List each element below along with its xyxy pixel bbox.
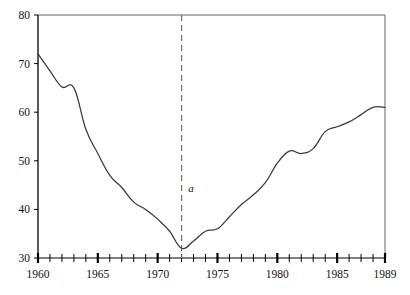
- x-tick-label-1980: 1980: [266, 268, 289, 280]
- series-line: [38, 54, 385, 249]
- y-tick-label-80: 80: [19, 9, 31, 21]
- x-tick-label-1975: 1975: [206, 268, 229, 280]
- x-tick-label-1965: 1965: [86, 268, 109, 280]
- plot-frame: [38, 15, 385, 258]
- plot-border: [38, 15, 385, 258]
- y-axis-tick-labels: 304050607080: [19, 9, 31, 264]
- y-axis-ticks: [34, 15, 38, 258]
- y-tick-label-40: 40: [19, 203, 31, 215]
- y-tick-label-70: 70: [19, 58, 31, 70]
- chart-annotations: a: [182, 15, 195, 258]
- y-tick-label-50: 50: [19, 155, 31, 167]
- chart-canvas: 304050607080 196019651970197519801985198…: [0, 0, 410, 295]
- y-tick-label-60: 60: [19, 106, 31, 118]
- annotation-label-a: a: [188, 182, 194, 194]
- line-chart: 304050607080 196019651970197519801985198…: [0, 0, 410, 295]
- x-tick-label-1960: 1960: [27, 268, 50, 280]
- x-tick-label-1985: 1985: [326, 268, 349, 280]
- x-tick-label-1970: 1970: [146, 268, 169, 280]
- data-series: [38, 54, 385, 249]
- y-tick-label-30: 30: [19, 252, 31, 264]
- x-axis-tick-labels: 1960196519701975198019851989: [27, 268, 397, 280]
- x-tick-label-1989: 1989: [374, 268, 397, 280]
